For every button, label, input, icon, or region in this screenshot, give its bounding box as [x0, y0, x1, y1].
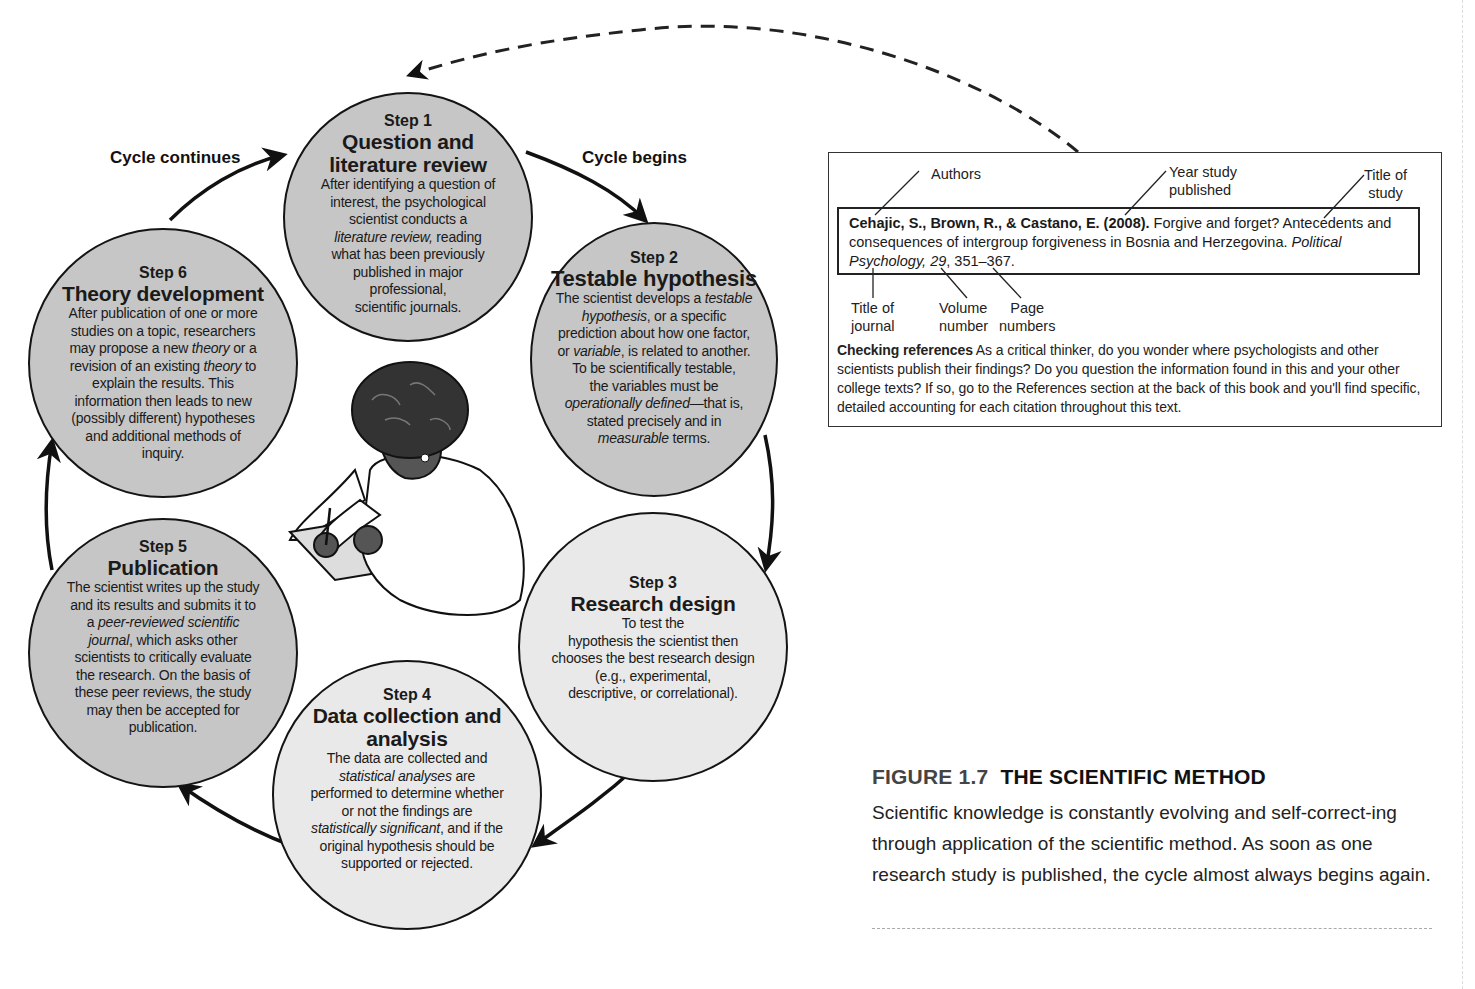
checking-heading: Checking references [837, 342, 973, 358]
step-6-body: After publication of one or morestudies … [69, 305, 258, 463]
year-annotation-line1: Year study [1169, 163, 1237, 181]
step-1-body: After identifying a question ofinterest,… [321, 176, 495, 316]
volume-line2: number [939, 317, 988, 335]
figure-name: THE SCIENTIFIC METHOD [1000, 765, 1266, 788]
title-of-journal-line1: Title of [851, 299, 895, 317]
step-2-body: The scientist develops a testablehypothe… [556, 290, 753, 448]
figure-number: FIGURE 1.7 [872, 765, 988, 788]
step-5-number: Step 5 [139, 538, 187, 556]
title-of-study-line2: study [1364, 184, 1407, 202]
title-of-study-line1: Title of [1364, 166, 1407, 184]
step-4-title-line2: analysis [366, 727, 447, 750]
citation-pages: , 351–367. [946, 253, 1015, 269]
cycle-begins-label: Cycle begins [582, 148, 687, 168]
title-of-journal-line2: journal [851, 317, 895, 335]
year-annotation-line2: published [1169, 181, 1237, 199]
step-1-title-line1: Question and [342, 130, 474, 153]
step-5-circle: Step 5 Publication The scientist writes … [28, 518, 298, 788]
step-4-title-line1: Data collection and [313, 704, 502, 727]
citation-example: Cehajic, S., Brown, R., & Castano, E. (2… [837, 207, 1420, 275]
volume-line1: Volume [939, 299, 988, 317]
citation-authors-year: Cehajic, S., Brown, R., & Castano, E. (2… [849, 215, 1150, 231]
figure-caption: FIGURE 1.7 THE SCIENTIFIC METHOD Scienti… [872, 765, 1442, 890]
checking-references-note: Checking references As a critical thinke… [837, 341, 1437, 417]
step-3-title: Research design [570, 592, 735, 615]
step-2-circle: Step 2 Testable hypothesis The scientist… [530, 222, 778, 497]
step-3-body: To test thehypothesis the scientist then… [552, 615, 755, 703]
caption-divider [872, 928, 1432, 929]
citation-volume: 29 [930, 253, 946, 269]
title-of-study-annotation: Title of study [1364, 166, 1407, 202]
dashed-return-arc [410, 26, 1078, 152]
step-1-number: Step 1 [384, 112, 432, 130]
arrow-step2-to-step3 [765, 435, 773, 568]
step-4-circle: Step 4 Data collection and analysis The … [272, 660, 542, 930]
step-5-title: Publication [108, 556, 219, 579]
volume-annotation: Volume number [939, 299, 988, 335]
arrow-step3-to-step4 [535, 768, 635, 845]
authors-annotation: Authors [931, 165, 981, 183]
step-2-number: Step 2 [630, 249, 678, 267]
step-2-title: Testable hypothesis [551, 267, 757, 290]
pages-annotation: Page numbers [999, 299, 1055, 335]
figure-title: FIGURE 1.7 THE SCIENTIFIC METHOD [872, 765, 1442, 789]
title-of-journal-annotation: Title of journal [851, 299, 895, 335]
step-6-circle: Step 6 Theory development After publicat… [28, 228, 298, 498]
step-5-body: The scientist writes up the studyand its… [67, 579, 260, 737]
pages-line2: numbers [999, 317, 1055, 335]
figure-caption-text: Scientific knowledge is constantly evolv… [872, 797, 1442, 890]
page-edge-rule [1462, 0, 1463, 989]
reference-example-box: Authors Year study published Title of st… [828, 152, 1442, 427]
step-6-number: Step 6 [139, 264, 187, 282]
step-1-title-line2: literature review [329, 153, 487, 176]
step-4-number: Step 4 [383, 686, 431, 704]
year-annotation: Year study published [1169, 163, 1237, 199]
step-6-title: Theory development [62, 282, 264, 305]
researcher-illustration [290, 362, 524, 615]
arrow-step5-to-step6 [46, 442, 52, 570]
step-1-circle: Step 1 Question and literature review Af… [283, 92, 533, 342]
step-4-body: The data are collected andstatistical an… [310, 750, 503, 873]
step-3-circle: Step 3 Research design To test thehypoth… [518, 512, 788, 782]
cycle-continues-label: Cycle continues [110, 148, 240, 168]
pages-line1: Page [999, 299, 1055, 317]
step-3-number: Step 3 [629, 574, 677, 592]
